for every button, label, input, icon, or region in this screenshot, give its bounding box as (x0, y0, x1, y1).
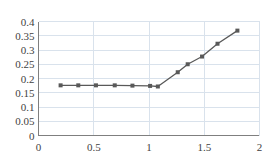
x-tick-label: 2 (257, 142, 263, 153)
y-tick-label: 0.3 (21, 45, 35, 56)
line-chart: 00.050.10.150.20.250.30.350.4 00.511.52 (0, 0, 271, 164)
y-tick-label: 0.25 (15, 59, 34, 70)
y-tick-label: 0.05 (15, 116, 34, 127)
x-tick-label: 0.5 (87, 142, 101, 153)
x-tick-label: 1 (146, 142, 152, 153)
y-tick-label: 0.1 (21, 102, 35, 113)
plot-canvas (0, 0, 271, 164)
x-tick-label: 1.5 (197, 142, 211, 153)
x-tick-label: 0 (36, 142, 42, 153)
y-tick-label: 0.2 (21, 73, 35, 84)
y-tick-label: 0.35 (15, 30, 34, 41)
y-tick-label: 0.15 (15, 87, 34, 98)
y-tick-label: 0 (29, 130, 35, 141)
y-tick-label: 0.4 (21, 16, 35, 27)
